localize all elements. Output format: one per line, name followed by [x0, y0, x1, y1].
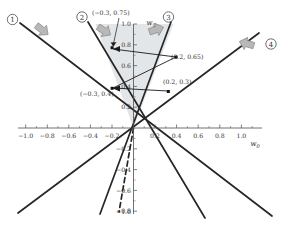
constraint-plot-svg: −1.0 −0.8 −0.6 −0.4 −0.2 0.2 0.4 0.6 0.8… — [0, 0, 285, 225]
xtick-neg-1-0: −1.0 — [18, 132, 33, 139]
constraint-marker-4[interactable]: 4 — [266, 39, 276, 49]
xtick-neg-0-4: −0.4 — [83, 132, 98, 139]
constraint-marker-2[interactable]: 2 — [77, 12, 87, 22]
xtick-pos-0-8: 0.8 — [215, 132, 225, 139]
point-label-right-lower: (0.2, 0.3) — [163, 78, 191, 85]
point-label-top-left: (−0.3, 0.75) — [92, 9, 130, 16]
svg-text:4: 4 — [269, 41, 274, 49]
xtick-pos-0-4: 0.4 — [172, 132, 182, 139]
xtick-pos-0-6: 0.6 — [193, 132, 203, 139]
x-axis-ticks — [26, 125, 253, 129]
ytick-pos-0-2: 0.2 — [121, 103, 131, 110]
data-point-marker[interactable] — [111, 46, 114, 49]
ytick-pos-0-6: 0.6 — [121, 62, 131, 69]
ytick-neg-0-4: −0.4 — [116, 166, 131, 173]
direction-arrow-1 — [32, 20, 52, 39]
svg-text:3: 3 — [166, 14, 170, 22]
x-axis-label: w0 — [250, 140, 260, 149]
xtick-pos-1-0: 1.0 — [236, 132, 246, 139]
ytick-neg-0-2: −0.2 — [116, 145, 131, 152]
svg-text:2: 2 — [80, 14, 84, 22]
ytick-pos-1-0: 1.0 — [121, 20, 131, 27]
xtick-neg-0-8: −0.8 — [40, 132, 55, 139]
xtick-neg-0-2: −0.2 — [104, 132, 119, 139]
data-point-marker[interactable] — [167, 90, 170, 93]
ytick-neg-0-6: −0.6 — [116, 187, 131, 194]
xtick-neg-0-6: −0.6 — [61, 132, 76, 139]
point-label-left-lower: (−0.3, 0.4) — [80, 90, 114, 97]
point-label-right-upper: (0.2, 0.65) — [171, 53, 203, 60]
constraint-marker-3[interactable]: 3 — [163, 12, 173, 22]
constraint-marker-1[interactable]: 1 — [7, 14, 17, 24]
ytick-neg-1-0-shown: −1.0 — [116, 208, 131, 215]
chart-canvas: −1.0 −0.8 −0.6 −0.4 −0.2 0.2 0.4 0.6 0.8… — [0, 0, 285, 225]
ytick-pos-0-8: 0.8 — [121, 41, 131, 48]
svg-text:1: 1 — [10, 16, 14, 24]
xtick-pos-0-2: 0.2 — [150, 132, 160, 139]
